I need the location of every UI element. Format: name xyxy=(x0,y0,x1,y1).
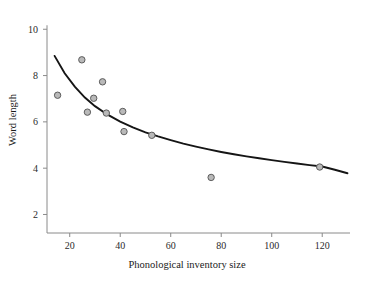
x-tick-label: 80 xyxy=(216,240,226,251)
x-axis-ticks: 20406080100120 xyxy=(65,233,330,251)
data-point xyxy=(103,110,109,116)
scatter-plot-svg: 246810 20406080100120 Phonological inven… xyxy=(0,0,366,288)
y-tick-label: 8 xyxy=(33,70,38,81)
y-tick-label: 6 xyxy=(33,116,38,127)
data-point xyxy=(121,128,127,134)
data-point xyxy=(79,57,85,63)
y-tick-label: 4 xyxy=(33,163,38,174)
axes-group xyxy=(47,25,350,233)
data-point xyxy=(54,92,60,98)
data-point xyxy=(120,108,126,114)
fitted-curve xyxy=(55,56,348,173)
y-tick-label: 10 xyxy=(28,24,38,35)
x-tick-label: 40 xyxy=(115,240,125,251)
x-tick-label: 100 xyxy=(264,240,279,251)
x-tick-label: 60 xyxy=(166,240,176,251)
x-tick-label: 20 xyxy=(65,240,75,251)
y-axis-ticks: 246810 xyxy=(28,24,47,220)
data-point xyxy=(99,79,105,85)
data-point xyxy=(208,174,214,180)
x-axis-title: Phonological inventory size xyxy=(128,259,246,270)
data-point xyxy=(317,164,323,170)
data-point xyxy=(91,95,97,101)
y-tick-label: 2 xyxy=(33,209,38,220)
x-tick-label: 120 xyxy=(315,240,330,251)
y-axis-title: Word length xyxy=(7,93,18,146)
chart-figure: 246810 20406080100120 Phonological inven… xyxy=(0,0,366,288)
data-point xyxy=(84,109,90,115)
data-point xyxy=(149,132,155,138)
